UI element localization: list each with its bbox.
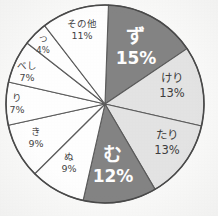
pie-slices-group <box>6 5 204 203</box>
pie-chart: ず15%けり13%たり13%む12%ぬ9%き9%り7%べし7%つ4%その他11% <box>0 0 218 216</box>
pie-chart-svg <box>0 0 218 216</box>
